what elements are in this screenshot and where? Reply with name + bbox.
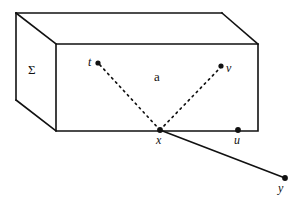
point-marker-v [218, 63, 223, 68]
label-point-t: t [88, 56, 91, 68]
label-sigma: Σ [28, 63, 36, 76]
label-region-a: a [154, 70, 160, 83]
top-left-diagonal-edge [16, 13, 56, 44]
label-point-y: y [278, 182, 283, 194]
solid-line-x-to-y [160, 130, 285, 178]
label-point-v: v [226, 62, 231, 74]
top-right-diagonal-edge [222, 13, 258, 44]
bottom-left-diagonal-edge [16, 100, 56, 131]
box-diagram-svg [0, 0, 304, 200]
label-point-u: u [234, 134, 240, 146]
point-marker-t [95, 60, 100, 65]
front-face-edges [56, 44, 258, 131]
figure-canvas: Σ a t v x u y [0, 0, 304, 200]
dashed-line-x-to-v [160, 67, 221, 130]
label-point-x: x [156, 134, 161, 146]
dashed-line-x-to-t [99, 64, 160, 130]
